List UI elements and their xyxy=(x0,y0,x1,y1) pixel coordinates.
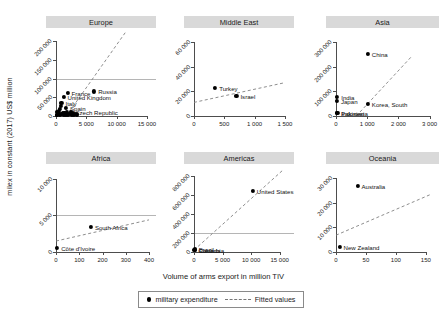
y-tick-label: 10 000 xyxy=(316,224,333,241)
x-tick xyxy=(336,252,337,255)
y-tick-label: 50 000 xyxy=(36,94,53,111)
x-tick xyxy=(366,252,367,255)
x-tick-label: 15 000 xyxy=(260,257,300,263)
fitted-values-line xyxy=(194,168,294,252)
y-tick-label: 5 000 xyxy=(38,212,53,227)
data-point-label: Australia xyxy=(362,182,386,189)
x-tick xyxy=(147,116,148,119)
x-tick xyxy=(79,252,80,255)
x-tick xyxy=(103,252,104,255)
y-tick-label: 600 000 xyxy=(172,192,192,212)
x-tick xyxy=(285,116,286,119)
y-tick-label: 200 000 xyxy=(34,38,54,58)
x-tick xyxy=(194,116,195,119)
y-tick-label: 800 000 xyxy=(172,173,192,193)
x-tick xyxy=(251,252,252,255)
panel-title-americas: Americas xyxy=(184,152,294,164)
data-point-label: South Africa xyxy=(95,224,128,231)
x-tick xyxy=(149,252,150,255)
x-tick xyxy=(56,252,57,255)
panel-americas: Americas0200 000400 000600 000800 00005 … xyxy=(158,152,298,274)
plot-area: 050 000100 000150 000200 00005 00010 000… xyxy=(56,32,156,116)
x-tick xyxy=(86,116,87,119)
panel-title-oceania: Oceania xyxy=(326,152,439,164)
x-tick xyxy=(117,116,118,119)
y-tick-label: 0 xyxy=(47,113,54,120)
legend-item-military-expenditure: military expenditure xyxy=(147,295,218,304)
fitted-values-line xyxy=(56,168,156,252)
data-point-label: Côte d'Ivoire xyxy=(61,244,95,251)
y-tick-label: 0 xyxy=(185,113,192,120)
y-tick-label: 10 000 xyxy=(36,176,53,193)
plot-area: 010 00020 00030 000050100150AustraliaNew… xyxy=(336,168,439,252)
x-tick-label: 3 000 xyxy=(410,121,447,127)
panel-title-africa: Africa xyxy=(46,152,156,164)
data-point-label: Colombia xyxy=(198,247,224,254)
legend-label-military-expenditure: military expenditure xyxy=(155,295,217,304)
y-tick-label: 0 xyxy=(47,249,54,256)
fitted-values-line xyxy=(336,168,439,252)
y-axis-title: milex in constant (2017) US$ million xyxy=(2,0,16,272)
x-tick xyxy=(224,116,225,119)
chart-figure: milex in constant (2017) US$ million Vol… xyxy=(0,0,447,319)
x-tick xyxy=(255,116,256,119)
y-tick-label: 20 000 xyxy=(174,88,191,105)
y-tick-label: 400 000 xyxy=(172,211,192,231)
x-axis-line xyxy=(194,116,285,117)
y-tick-label: 0 xyxy=(185,249,192,256)
panel-europe: Europe050 000100 000150 000200 00005 000… xyxy=(20,16,160,138)
panel-title-middle-east: Middle East xyxy=(184,16,294,28)
plot-area: 0100 000200 000300 00001 0002 0003 000Ch… xyxy=(336,32,439,116)
y-tick-label: 0 xyxy=(327,249,334,256)
x-axis-line xyxy=(336,252,426,253)
x-tick xyxy=(396,252,397,255)
x-tick xyxy=(194,252,195,255)
panel-title-asia: Asia xyxy=(326,16,439,28)
plot-area: 05 00010 0000100200300400South AfricaCôt… xyxy=(56,168,156,252)
data-point-label: Israel xyxy=(240,92,255,99)
x-tick xyxy=(126,252,127,255)
y-tick-label: 30 000 xyxy=(316,175,333,192)
x-axis-line xyxy=(56,116,147,117)
data-point-label: Korea, South xyxy=(372,101,408,108)
data-point-label: New Zealand xyxy=(344,243,380,250)
y-tick-label: 200 000 xyxy=(172,230,192,250)
legend-item-fitted-values: Fitted values xyxy=(225,295,296,304)
plot-area: 0200 000400 000600 000800 00005 00010 00… xyxy=(194,168,294,252)
y-tick-label: 0 xyxy=(327,113,334,120)
x-tick xyxy=(280,252,281,255)
data-point-label: Indonesia xyxy=(341,110,367,117)
dashed-line-icon xyxy=(225,299,251,300)
data-point-label: Japan xyxy=(341,97,358,104)
fitted-values-line xyxy=(194,32,294,116)
data-point-label: United States xyxy=(257,187,294,194)
y-tick-label: 20 000 xyxy=(316,199,333,216)
x-tick-label: 1 500 xyxy=(265,121,305,127)
chart-legend: military expenditure Fitted values xyxy=(138,291,304,308)
x-tick-label: 150 xyxy=(406,257,446,263)
x-tick xyxy=(430,116,431,119)
data-point-label: Czech Republic xyxy=(75,108,118,115)
filled-circle-icon xyxy=(147,297,151,301)
panel-africa: Africa05 00010 0000100200300400South Afr… xyxy=(20,152,160,274)
panel-oceania: Oceania010 00020 00030 000050100150Austr… xyxy=(300,152,443,274)
y-tick-label: 200 000 xyxy=(314,63,334,83)
data-point-label: China xyxy=(372,50,388,57)
x-tick xyxy=(336,116,337,119)
x-tick xyxy=(398,116,399,119)
panel-middle-east: Middle East020 00040 00060 00005001 0001… xyxy=(158,16,298,138)
data-point-label: Turkey xyxy=(219,85,237,92)
y-tick-label: 40 000 xyxy=(174,63,191,80)
panel-title-europe: Europe xyxy=(46,16,156,28)
plot-area: 020 00040 00060 00005001 0001 500TurkeyI… xyxy=(194,32,294,116)
y-tick-label: 300 000 xyxy=(314,39,334,59)
y-tick-label: 60 000 xyxy=(174,39,191,56)
legend-label-fitted-values: Fitted values xyxy=(255,295,296,304)
panel-asia: Asia0100 000200 000300 00001 0002 0003 0… xyxy=(300,16,443,138)
x-tick xyxy=(426,252,427,255)
y-tick-label: 150 000 xyxy=(34,57,54,77)
y-tick-label: 100 000 xyxy=(34,76,54,96)
y-tick-label: 100 000 xyxy=(314,88,334,108)
